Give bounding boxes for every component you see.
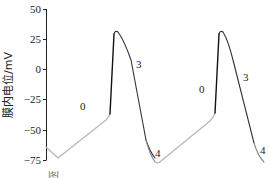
y-tick-25: 25 [30,33,42,45]
phase4-segment-1 [46,114,110,158]
phase-3-label-2: 3 [243,71,249,83]
y-tick-0: 0 [36,63,42,75]
phase3-segment-1 [114,31,155,158]
phase4-segment-2 [155,113,215,163]
figure-caption-text: 图 [48,171,228,178]
y-tick-minus-75: −75 [24,154,42,166]
phase-4-label-1: 4 [155,147,161,159]
phase-0-label-1: 0 [80,100,86,112]
phase-4-label-2: 4 [260,144,266,156]
figure-caption: 图 [48,171,228,178]
action-potential-chart: 50 25 0 −25 −50 −75 膜内电位/mV 0 3 4 0 3 4 [0,0,270,178]
phase0-segment-2 [215,34,219,113]
y-axis: 50 25 0 −25 −50 −75 [24,3,47,166]
y-axis-label: 膜内电位/mV [1,52,15,118]
y-tick-minus-50: −50 [24,124,42,136]
phase-0-label-2: 0 [199,83,205,95]
phase0-segment-1 [110,34,114,114]
y-tick-50: 50 [30,3,42,15]
phase-3-label-1: 3 [136,58,142,70]
y-tick-minus-25: −25 [24,93,42,105]
phase3-segment-2 [219,31,254,143]
action-potential-curve [46,31,264,162]
